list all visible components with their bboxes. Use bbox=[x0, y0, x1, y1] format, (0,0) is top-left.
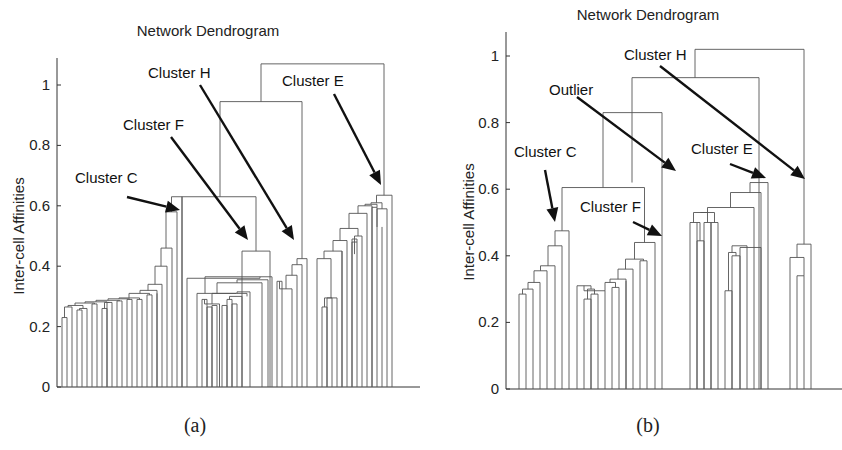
arrow-icon bbox=[127, 197, 166, 207]
y-tick-label: 0.4 bbox=[478, 247, 499, 264]
y-tick-label: 1 bbox=[491, 47, 499, 64]
y-tick-label: 1 bbox=[42, 76, 50, 93]
arrowhead-icon bbox=[661, 158, 676, 171]
y-tick-label: 0.6 bbox=[478, 180, 499, 197]
chart-title-a: Network Dendrogram bbox=[137, 22, 280, 39]
arrowhead-icon bbox=[751, 167, 766, 178]
dendrogram-panel-b: 00.20.40.60.81Cluster COutlierCluster FC… bbox=[478, 32, 842, 397]
arrow-icon bbox=[334, 94, 375, 173]
figure: 00.20.40.60.81Cluster CCluster FCluster … bbox=[0, 0, 842, 450]
annotation: Cluster E bbox=[282, 72, 381, 185]
arrow-icon bbox=[545, 170, 552, 208]
arrowhead-icon bbox=[790, 166, 805, 179]
y-tick-label: 0 bbox=[491, 380, 499, 397]
arrow-icon bbox=[633, 222, 649, 230]
arrow-icon bbox=[577, 97, 665, 163]
y-axis-label-a: Inter-cell Affinities bbox=[10, 177, 27, 294]
y-tick-label: 0.2 bbox=[29, 318, 50, 335]
annotation-label: Cluster H bbox=[624, 46, 687, 63]
y-tick-label: 0.2 bbox=[478, 313, 499, 330]
annotation: Cluster C bbox=[514, 143, 577, 222]
arrow-icon bbox=[730, 164, 753, 173]
arrowhead-icon bbox=[282, 225, 294, 240]
annotation-label: Outlier bbox=[549, 81, 593, 98]
arrowhead-icon bbox=[235, 225, 248, 240]
dendrogram-links bbox=[519, 49, 811, 389]
annotation-label: Cluster E bbox=[691, 140, 753, 157]
y-tick-label: 0.8 bbox=[29, 136, 50, 153]
arrowhead-icon bbox=[165, 201, 180, 213]
arrow-icon bbox=[171, 137, 240, 229]
arrow-icon bbox=[200, 85, 287, 228]
annotation-label: Cluster E bbox=[282, 72, 344, 89]
dendrogram-panel-a: 00.20.40.60.81Cluster CCluster FCluster … bbox=[29, 58, 420, 395]
caption-b: (b) bbox=[636, 414, 659, 437]
y-tick-label: 0.8 bbox=[478, 114, 499, 131]
arrowhead-icon bbox=[546, 207, 558, 222]
annotation: Cluster F bbox=[580, 198, 662, 236]
chart-title-b: Network Dendrogram bbox=[577, 6, 720, 23]
annotation-label: Cluster F bbox=[580, 198, 641, 215]
annotation-label: Cluster C bbox=[514, 143, 577, 160]
y-tick-label: 0 bbox=[42, 378, 50, 395]
annotation: Cluster C bbox=[75, 169, 180, 212]
y-tick-label: 0.4 bbox=[29, 257, 50, 274]
annotation: Cluster H bbox=[148, 64, 294, 240]
annotation-label: Cluster F bbox=[123, 116, 184, 133]
caption-a: (a) bbox=[184, 414, 206, 437]
annotation-label: Cluster H bbox=[148, 64, 211, 81]
annotation: Cluster E bbox=[691, 140, 766, 179]
annotation-label: Cluster C bbox=[75, 169, 138, 186]
y-tick-label: 0.6 bbox=[29, 197, 50, 214]
y-axis-label-b: Inter-cell Affinities bbox=[460, 163, 477, 280]
